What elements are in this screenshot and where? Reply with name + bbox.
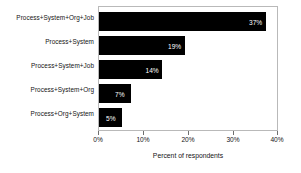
category-label-4: Process+Org+System	[0, 110, 94, 117]
x-tick-0	[98, 131, 99, 135]
category-axis-labels: Process+System+Org+Job Process+System Pr…	[0, 10, 94, 128]
category-label-2: Process+System+Job	[0, 62, 94, 69]
bar-value-0: 37%	[249, 18, 262, 25]
x-tick-label-4: 40%	[270, 136, 283, 144]
category-label-0: Process+System+Org+Job	[0, 14, 94, 21]
x-tick-2	[188, 131, 189, 135]
plot-area: 37% 19% 14% 7% 5%	[98, 6, 278, 131]
bar-value-2: 14%	[146, 66, 159, 73]
bar-value-4: 5%	[106, 114, 116, 121]
x-axis: 0% 10% 20% 30% 40%	[98, 131, 278, 136]
bar-chart-figure: Process+System+Org+Job Process+System Pr…	[0, 0, 301, 173]
category-label-1: Process+System	[0, 38, 94, 45]
x-tick-label-0: 0%	[93, 136, 103, 144]
x-tick-3	[233, 131, 234, 135]
x-tick-4	[277, 131, 278, 135]
x-tick-label-3: 30%	[226, 136, 239, 144]
x-tick-label-2: 20%	[181, 136, 194, 144]
x-tick-1	[143, 131, 144, 135]
bar-0[interactable]	[99, 12, 266, 31]
x-tick-label-1: 10%	[136, 136, 149, 144]
plot-inner: 37% 19% 14% 7% 5%	[99, 7, 277, 130]
bar-value-1: 19%	[168, 42, 181, 49]
category-label-3: Process+System+Org	[0, 86, 94, 93]
x-axis-title: Percent of respondents	[98, 152, 278, 160]
bar-value-3: 7%	[115, 90, 125, 97]
